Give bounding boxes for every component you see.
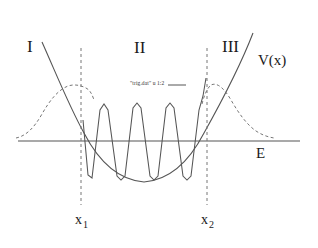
- tick-label-x2: x2: [201, 213, 214, 230]
- region-label-II: II: [134, 39, 145, 56]
- energy-level-label: E: [256, 146, 265, 161]
- potential-curve-label: V(x): [258, 53, 286, 68]
- tick-label-x1: x1: [75, 213, 88, 230]
- wavefunction-region-II: [83, 78, 206, 180]
- legend-entry-label: "trig.dat" u 1:2: [130, 81, 164, 87]
- tick-label-x1-base: x: [75, 212, 82, 227]
- tick-label-x2-base: x: [201, 212, 208, 227]
- wavefunction-region-III: [202, 84, 274, 138]
- plot-canvas: [0, 0, 318, 248]
- potential-well-figure: I II III V(x) E "trig.dat" u 1:2 x1 x2: [0, 0, 318, 248]
- tick-label-x1-subscript: 1: [82, 219, 88, 230]
- region-label-I: I: [27, 38, 33, 55]
- tick-label-x2-subscript: 2: [208, 219, 214, 230]
- region-label-III: III: [222, 38, 239, 55]
